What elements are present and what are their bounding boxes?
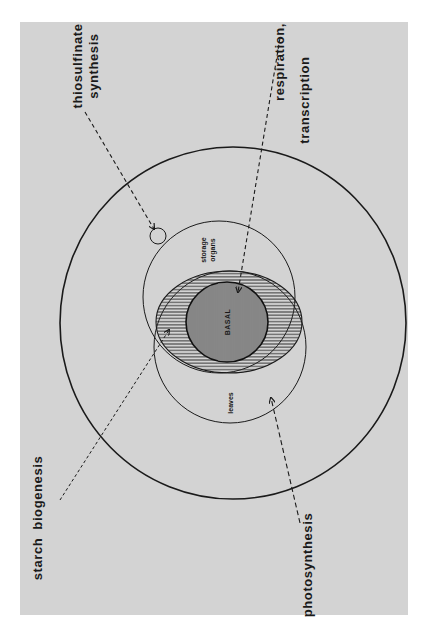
photosynthesis-annotation: photosynthesis bbox=[300, 513, 315, 617]
photosynthesis-label: photosynthesis bbox=[300, 513, 315, 617]
thiosulfinate-label: thiosulfinate bbox=[70, 23, 85, 108]
photosynthesis-arrow bbox=[271, 398, 300, 523]
leaves-label: leaves bbox=[227, 392, 234, 414]
starch-biogenesis-arrow bbox=[60, 330, 169, 500]
respiration-label: respiration, bbox=[272, 23, 287, 101]
storage-label: storage bbox=[200, 237, 208, 262]
thiosulfinate-annotation: thiosulfinate synthesis bbox=[70, 23, 101, 108]
biogenesis-word: biogenesis bbox=[30, 456, 45, 530]
storage-organs-label: storage organs bbox=[200, 237, 217, 262]
starch-word: starch bbox=[30, 538, 45, 581]
starch-biogenesis-annotation: starchbiogenesis bbox=[30, 456, 45, 581]
transcription-annotation: transcription bbox=[297, 56, 312, 143]
leaves-label-group: leaves bbox=[227, 392, 234, 414]
synthesis-label: synthesis bbox=[86, 33, 101, 98]
thiosulfinate-arrow bbox=[85, 112, 154, 229]
basal-label: BASAL bbox=[224, 308, 231, 335]
starch-biogenesis-label: starchbiogenesis bbox=[30, 456, 45, 581]
metabolic-compartment-diagram: storage organs leaves BASAL thiosulfinat… bbox=[0, 0, 425, 641]
organs-label: organs bbox=[209, 238, 217, 261]
small-site-circle bbox=[150, 228, 166, 244]
basal-label-group: BASAL bbox=[224, 308, 231, 335]
transcription-label: transcription bbox=[297, 56, 312, 143]
respiration-annotation: respiration, bbox=[272, 23, 287, 101]
